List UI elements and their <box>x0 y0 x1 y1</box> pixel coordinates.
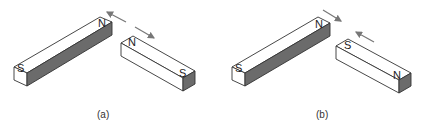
pole-label-n: N <box>315 18 323 30</box>
caption-a: (a) <box>97 109 109 120</box>
arrow-icon <box>107 12 126 22</box>
arrow-icon <box>323 10 341 21</box>
pole-label-s: S <box>17 62 24 74</box>
magnet-figure: S N N S (a) S N S N <box>0 0 425 124</box>
pole-label-s: S <box>179 67 186 79</box>
pole-label-s: S <box>344 39 351 51</box>
caption-b: (b) <box>316 109 328 120</box>
panel-b: S N S N (b) <box>232 10 411 120</box>
pole-label-n: N <box>98 17 106 29</box>
magnet-b-left: S N <box>232 17 330 86</box>
pole-label-n: N <box>393 69 401 81</box>
figure-canvas: S N N S (a) S N S N <box>0 0 425 124</box>
pole-label-s: S <box>235 62 242 74</box>
panel-a: S N N S (a) <box>14 12 195 120</box>
arrow-icon <box>356 32 374 42</box>
magnet-a-right: N S <box>121 36 195 91</box>
magnet-b-right: S N <box>336 39 411 93</box>
magnet-a-left: S N <box>14 17 112 86</box>
arrow-icon <box>135 27 154 38</box>
pole-label-n: N <box>128 36 136 48</box>
